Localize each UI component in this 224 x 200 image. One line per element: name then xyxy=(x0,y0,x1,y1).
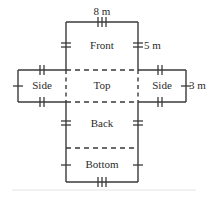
diagram-canvas: Front Side Top Side Back Bottom 8 m 5 m … xyxy=(0,0,224,200)
dimension-label-width: 8 m xyxy=(66,6,138,17)
face-label-bottom: Bottom xyxy=(66,159,138,170)
face-label-top: Top xyxy=(66,80,138,91)
face-label-back: Back xyxy=(66,118,138,129)
face-label-side-left: Side xyxy=(18,80,66,91)
box-net-diagram xyxy=(0,0,224,200)
dimension-label-depth: 3 m xyxy=(189,80,206,91)
face-label-side-right: Side xyxy=(138,80,186,91)
dimension-label-height: 5 m xyxy=(144,40,161,51)
face-label-front: Front xyxy=(66,40,138,51)
